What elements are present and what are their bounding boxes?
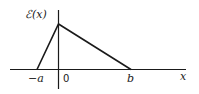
tick-label-zero: 0 [63,73,69,84]
x-axis-label: x [180,70,187,83]
tick-label-neg-a: −a [28,72,44,85]
y-axis-label: ℰ(x) [25,8,47,21]
function-curve [37,24,131,70]
triangle-function-diagram: ℰ(x) x −a 0 b [0,0,199,94]
tick-label-b: b [127,72,134,85]
